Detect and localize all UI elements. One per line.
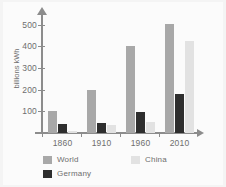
bar-china-2010	[185, 41, 194, 133]
x-tick-label: 2010	[160, 138, 200, 148]
bar-china-1860	[68, 131, 77, 133]
x-tick-mark	[159, 133, 160, 137]
x-tick-mark	[120, 133, 121, 137]
bar-world-1860	[48, 111, 57, 133]
bar-group	[48, 2, 88, 133]
legend-label: China	[145, 155, 167, 164]
x-tick-mark	[42, 133, 43, 137]
x-tick-label: 1860	[43, 138, 83, 148]
chart-screenshot: billions kWh 100200300400500 18601910196…	[0, 0, 226, 187]
bar-china-1960	[146, 122, 155, 133]
bar-germany-2010	[175, 94, 184, 133]
bar-group	[87, 2, 127, 133]
bar-china-1910	[107, 125, 116, 133]
legend-swatch-world	[43, 156, 52, 164]
legend-item-world[interactable]: World	[43, 154, 79, 165]
legend-label: Germany	[57, 169, 91, 178]
bar-world-1910	[87, 90, 96, 133]
legend-label: World	[57, 155, 79, 164]
legend-swatch-germany	[43, 170, 52, 178]
bar-germany-1860	[58, 124, 67, 133]
bar-world-1960	[126, 46, 135, 133]
x-tick-label: 1910	[82, 138, 122, 148]
bar-group	[126, 2, 166, 133]
bar-chart-plot: billions kWh 100200300400500 18601910196…	[3, 2, 223, 185]
chart-legend: WorldChinaGermany	[43, 154, 203, 180]
bar-germany-1910	[97, 123, 106, 133]
bar-groups	[3, 2, 223, 133]
legend-item-china[interactable]: China	[131, 154, 167, 165]
chart-card: billions kWh 100200300400500 18601910196…	[3, 2, 223, 185]
x-tick-label: 1960	[121, 138, 161, 148]
x-tick-mark	[81, 133, 82, 137]
bar-group	[165, 2, 205, 133]
legend-swatch-china	[131, 156, 140, 164]
bar-world-2010	[165, 24, 174, 133]
legend-item-germany[interactable]: Germany	[43, 168, 91, 179]
bar-germany-1960	[136, 112, 145, 133]
